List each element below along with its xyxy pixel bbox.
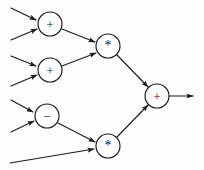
edge-add1-to-mul1: [62, 29, 95, 42]
edge-add2-to-mul1: [62, 53, 96, 66]
node-multiply-1-label: *: [105, 38, 112, 53]
input-edge-2: [11, 29, 37, 40]
operator-nodes: ++−**+: [35, 12, 169, 158]
edge-mul1-to-add3: [117, 55, 148, 87]
node-multiply-2[interactable]: *: [96, 134, 120, 158]
edge-sub1-to-mul2: [58, 123, 95, 142]
input-edge-4: [11, 75, 37, 86]
dataflow-graph: ++−**+: [0, 0, 204, 170]
edge-mul2-to-add3: [117, 105, 148, 137]
input-edge-5: [11, 100, 33, 112]
input-edge-3: [11, 56, 36, 66]
node-add-1-label: +: [46, 17, 53, 32]
input-edge-7: [10, 149, 94, 163]
diagram-canvas: ++−**+: [0, 0, 204, 170]
node-multiply-1[interactable]: *: [96, 34, 120, 58]
node-add-2[interactable]: +: [38, 58, 62, 82]
node-add-1[interactable]: +: [38, 12, 62, 36]
input-edge-6: [11, 121, 34, 132]
node-add-2-label: +: [46, 63, 53, 78]
node-subtract-1[interactable]: −: [35, 104, 59, 128]
node-multiply-2-label: *: [105, 138, 112, 153]
node-subtract-1-label: −: [43, 109, 50, 124]
node-add-3-label: +: [153, 89, 160, 104]
input-edge-1: [11, 8, 36, 20]
node-add-3[interactable]: +: [145, 84, 169, 108]
